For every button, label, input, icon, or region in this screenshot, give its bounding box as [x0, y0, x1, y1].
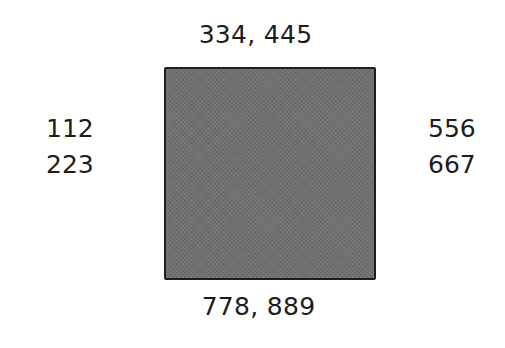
bottom-label: 778, 889 — [0, 289, 505, 325]
right-label-1: 556 — [428, 111, 488, 147]
left-labels: 112 223 — [46, 111, 106, 183]
right-label-2: 667 — [428, 147, 488, 183]
top-label: 334, 445 — [0, 17, 505, 53]
gray-square — [164, 67, 376, 280]
left-label-1: 112 — [46, 111, 106, 147]
right-labels: 556 667 — [428, 111, 488, 183]
left-label-2: 223 — [46, 147, 106, 183]
